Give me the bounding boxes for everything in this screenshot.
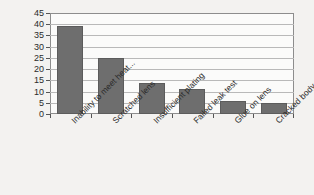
y-tick-label: 45 — [34, 9, 44, 18]
x-tick-mark — [213, 114, 214, 118]
y-tick-label: 25 — [34, 53, 44, 62]
x-tick-label: Cracked body — [274, 119, 280, 125]
y-tick-label: 5 — [39, 98, 44, 107]
x-tick-mark — [293, 114, 294, 118]
x-tick-mark — [253, 114, 254, 118]
x-axis-labels: Inability to meet heat...Scratched lensI… — [50, 119, 294, 195]
y-axis: 051015202530354045 — [26, 13, 50, 114]
y-tick-label: 35 — [34, 31, 44, 40]
x-tick-mark — [131, 114, 132, 118]
bar-slot — [50, 13, 91, 114]
y-tick-label: 20 — [34, 65, 44, 74]
x-tick-label: Failed leak test — [192, 119, 198, 125]
x-tick-label: Inability to meet heat... — [70, 119, 76, 125]
x-tick-mark — [50, 114, 51, 118]
x-tick-label: Scratched lens — [111, 119, 117, 125]
bar — [57, 26, 83, 114]
x-tick-mark — [172, 114, 173, 118]
bar-chart: 051015202530354045 Inability to meet hea… — [0, 0, 314, 195]
x-tick-label: Insufficient plating — [152, 119, 158, 125]
y-tick-label: 40 — [34, 20, 44, 29]
y-tick-label: 0 — [39, 110, 44, 119]
x-tick-label: Glue on lens — [233, 119, 239, 125]
y-tick-label: 15 — [34, 76, 44, 85]
y-tick-label: 10 — [34, 87, 44, 96]
x-tick-mark — [91, 114, 92, 118]
y-tick-label: 30 — [34, 42, 44, 51]
